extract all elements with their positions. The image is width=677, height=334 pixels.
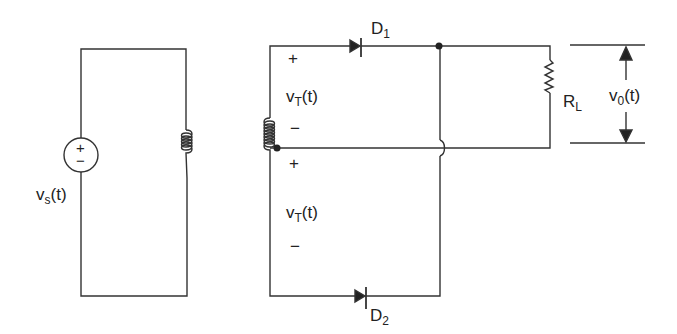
secondary-inductor-icon bbox=[264, 118, 275, 180]
secondary-circuit bbox=[264, 38, 553, 309]
lower-minus-sign: − bbox=[290, 238, 300, 255]
primary-inductor-icon bbox=[182, 130, 193, 178]
diode-d1-icon bbox=[350, 38, 361, 57]
upper-minus-sign: − bbox=[290, 120, 300, 137]
diode-d2-icon bbox=[355, 287, 366, 309]
diode-d2-label: D2 bbox=[370, 307, 389, 327]
rectifier-circuit-diagram: + − vs(t) + vT(t) − + vT(t) − D1 D2 RL v… bbox=[0, 0, 677, 334]
diode-d1-label: D1 bbox=[371, 20, 390, 40]
primary-loop bbox=[64, 49, 192, 296]
circuit-schematic bbox=[0, 0, 677, 334]
load-resistor-label: RL bbox=[563, 93, 582, 113]
arrow-up-icon bbox=[620, 47, 632, 60]
source-label: vs(t) bbox=[36, 186, 67, 206]
upper-secondary-label: vT(t) bbox=[286, 88, 318, 108]
upper-plus-sign: + bbox=[288, 50, 298, 67]
resistor-icon bbox=[545, 60, 553, 93]
arrow-down-icon bbox=[620, 130, 632, 142]
source-minus-sign: − bbox=[76, 153, 85, 168]
output-voltage-label: v0(t) bbox=[609, 87, 640, 107]
center-tap-node-icon bbox=[274, 145, 281, 152]
lower-plus-sign: + bbox=[289, 155, 299, 172]
output-node-icon bbox=[436, 43, 443, 50]
lower-secondary-label: vT(t) bbox=[286, 204, 318, 224]
